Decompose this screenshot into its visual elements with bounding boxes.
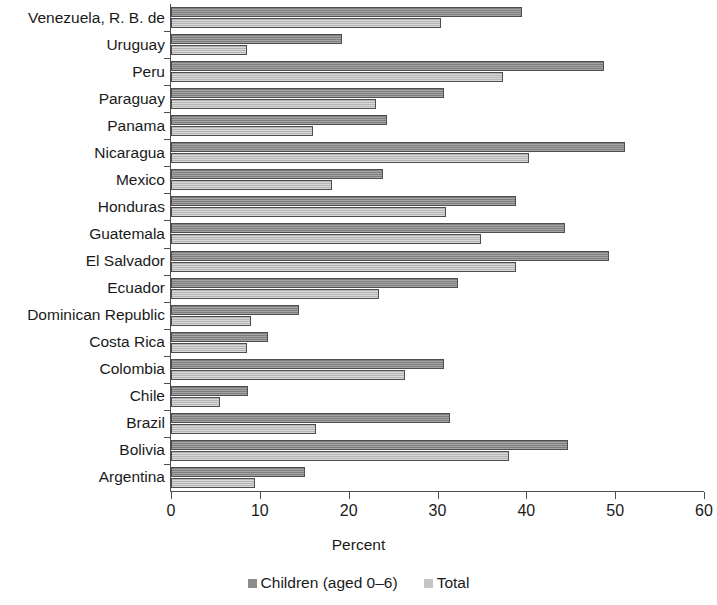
y-axis-tick [164,248,171,249]
x-axis-tick [615,492,616,499]
bar-group [171,251,704,274]
category-label: Venezuela, R. B. de [0,10,165,26]
bar-total [171,99,376,109]
x-axis-tick-label: 50 [606,503,624,519]
bar-children [171,88,444,98]
legend-swatch-icon [248,579,257,588]
legend-label: Total [437,574,470,592]
plot-area [171,4,704,491]
legend-label: Children (aged 0–6) [261,574,398,592]
bar-group [171,440,704,463]
bar-children [171,223,565,233]
x-axis-tick-label: 30 [429,503,447,519]
bar-children [171,196,516,206]
y-axis-tick [164,464,171,465]
bar-children [171,413,450,423]
bar-children [171,142,625,152]
x-axis-tick-label: 60 [695,503,713,519]
category-label: Peru [0,64,165,80]
bar-total [171,153,529,163]
bar-children [171,440,568,450]
category-label: Dominican Republic [0,307,165,323]
bar-group [171,386,704,409]
bar-group [171,359,704,382]
y-axis-tick [164,139,171,140]
chart-legend: Children (aged 0–6)Total [0,574,717,592]
x-axis-title: Percent [0,536,717,554]
bar-children [171,359,444,369]
x-axis-tick-label: 10 [251,503,269,519]
category-label: Mexico [0,172,165,188]
bar-total [171,18,441,28]
bar-group [171,7,704,30]
category-label: Brazil [0,415,165,431]
category-label: Colombia [0,361,165,377]
y-axis-tick [164,31,171,32]
bar-total [171,207,446,217]
category-label: Panama [0,118,165,134]
bar-group [171,223,704,246]
bar-children [171,61,604,71]
bar-total [171,343,247,353]
bar-total [171,478,255,488]
bar-group [171,332,704,355]
category-label: Chile [0,388,165,404]
y-axis-tick [164,356,171,357]
bar-group [171,278,704,301]
bar-children [171,169,383,179]
y-axis-tick [164,85,171,86]
y-axis-tick [164,383,171,384]
category-label: El Salvador [0,253,165,269]
bar-children [171,467,305,477]
bar-total [171,126,313,136]
bar-group [171,413,704,436]
y-axis-tick [164,193,171,194]
x-axis-tick [438,492,439,499]
y-axis-tick [164,329,171,330]
y-axis-tick [164,302,171,303]
x-axis-tick [349,492,350,499]
bar-group [171,142,704,165]
y-axis-tick [164,58,171,59]
x-axis-tick [526,492,527,499]
bar-group [171,61,704,84]
x-axis-tick [260,492,261,499]
bar-group [171,34,704,57]
bar-total [171,234,481,244]
bar-group [171,115,704,138]
category-label: Argentina [0,469,165,485]
category-label: Costa Rica [0,334,165,350]
x-axis-tick [704,492,705,499]
bar-total [171,289,379,299]
x-axis-tick-label: 0 [167,503,176,519]
bar-group [171,196,704,219]
category-label: Paraguay [0,91,165,107]
bar-total [171,262,516,272]
bar-total [171,45,247,55]
bar-children [171,34,342,44]
bar-children [171,305,299,315]
category-label: Honduras [0,199,165,215]
bar-group [171,305,704,328]
bar-children [171,251,609,261]
category-label: Guatemala [0,226,165,242]
category-label: Bolivia [0,442,165,458]
bar-children [171,115,387,125]
category-label: Ecuador [0,280,165,296]
bar-total [171,72,503,82]
horizontal-bar-chart: Venezuela, R. B. deUruguayPeruParaguayPa… [0,0,717,605]
y-axis-tick [164,275,171,276]
y-axis-tick [164,437,171,438]
bar-group [171,169,704,192]
legend-item: Children (aged 0–6) [248,574,398,592]
bar-total [171,180,332,190]
y-axis-tick [164,220,171,221]
bar-children [171,386,248,396]
bar-total [171,370,405,380]
x-axis-tick [171,492,172,499]
bar-total [171,316,251,326]
legend-item: Total [424,574,470,592]
bar-total [171,424,316,434]
bar-children [171,7,522,17]
y-axis-tick [164,166,171,167]
